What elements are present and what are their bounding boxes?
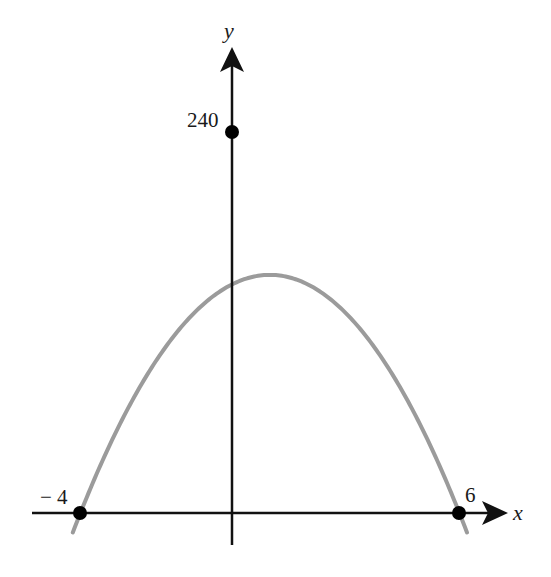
- parabola-curve: [73, 275, 467, 533]
- point-y-intercept: [225, 125, 239, 139]
- x-axis-label: x: [512, 500, 523, 525]
- x-intercept-right-label: 6: [465, 483, 476, 507]
- point-x-intercept-left: [73, 506, 87, 520]
- y-axis-label: y: [222, 18, 234, 43]
- point-x-intercept-right: [452, 506, 466, 520]
- parabola-chart: y x 240 − 4 6: [0, 0, 551, 577]
- y-intercept-label: 240: [187, 108, 219, 132]
- x-intercept-left-label: − 4: [40, 485, 68, 509]
